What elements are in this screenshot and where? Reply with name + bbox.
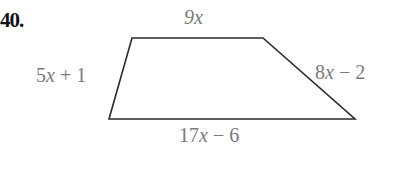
top-side-text: 9x	[184, 6, 203, 28]
right-side-label: 8x − 2	[315, 61, 365, 84]
top-side-label: 9x	[184, 6, 203, 29]
bottom-side-label: 17x − 6	[179, 124, 239, 147]
left-side-label: 5x + 1	[36, 64, 86, 87]
